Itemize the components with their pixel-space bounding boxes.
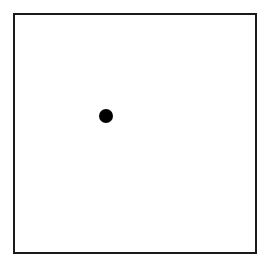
square-frame [13,13,257,254]
black-dot [99,109,113,123]
